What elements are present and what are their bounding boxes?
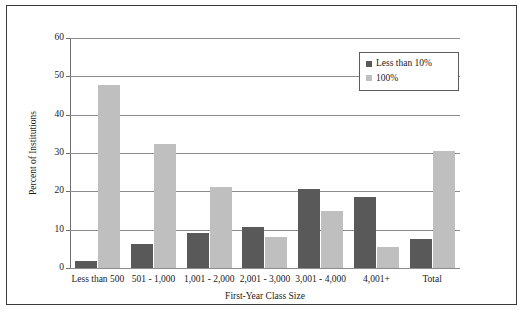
bar-cluster — [70, 38, 126, 268]
bar[interactable] — [321, 211, 343, 268]
legend-label-series-1: 100% — [376, 74, 398, 84]
y-tick-label-60: 60 — [55, 33, 65, 43]
bar[interactable] — [410, 239, 432, 268]
bar-cluster — [181, 38, 237, 268]
x-axis-title: First-Year Class Size — [70, 291, 460, 301]
y-tick-label-20: 20 — [55, 187, 65, 197]
legend-swatch-icon-series-0 — [366, 61, 372, 67]
legend-item-less-than-10[interactable]: Less than 10% — [366, 59, 452, 69]
chart-legend: Less than 10% 100% — [359, 52, 459, 91]
x-tick-label: Total — [422, 275, 441, 285]
y-tick-label-30: 30 — [55, 148, 65, 158]
bar-cluster — [126, 38, 182, 268]
y-tick-label-50: 50 — [55, 72, 65, 82]
x-tick-label: 501 - 1,000 — [132, 275, 176, 285]
x-tick-label: 1,001 - 2,000 — [184, 275, 235, 285]
bar[interactable] — [265, 237, 287, 268]
y-axis-title: Percent of Institutions — [28, 111, 38, 195]
bar[interactable] — [187, 233, 209, 268]
x-tick-label: 2,001 - 3,000 — [240, 275, 291, 285]
y-tick-mark-0 — [66, 268, 70, 269]
y-tick-label-40: 40 — [55, 110, 65, 120]
bar[interactable] — [242, 227, 264, 268]
legend-item-100-percent[interactable]: 100% — [366, 74, 452, 84]
bar[interactable] — [98, 85, 120, 268]
x-tick-label: 4,001+ — [363, 275, 390, 285]
chart-figure-frame: Percent of Institutions 0102030405060Les… — [6, 5, 517, 305]
legend-swatch-icon-series-1 — [366, 75, 372, 81]
bar[interactable] — [210, 187, 232, 268]
x-tick-label: 3,001 - 4,000 — [295, 275, 346, 285]
bar[interactable] — [154, 144, 176, 268]
bar[interactable] — [298, 189, 320, 268]
y-tick-label-0: 0 — [59, 263, 64, 273]
gridline-0 — [70, 268, 460, 269]
bar-cluster — [293, 38, 349, 268]
bar[interactable] — [354, 197, 376, 268]
legend-label-series-0: Less than 10% — [376, 59, 432, 69]
x-tick-label: Less than 500 — [71, 275, 124, 285]
bar-cluster — [237, 38, 293, 268]
bar[interactable] — [433, 151, 455, 268]
bar[interactable] — [377, 247, 399, 268]
bar[interactable] — [131, 244, 153, 268]
bar[interactable] — [75, 261, 97, 268]
y-tick-label-10: 10 — [55, 225, 65, 235]
